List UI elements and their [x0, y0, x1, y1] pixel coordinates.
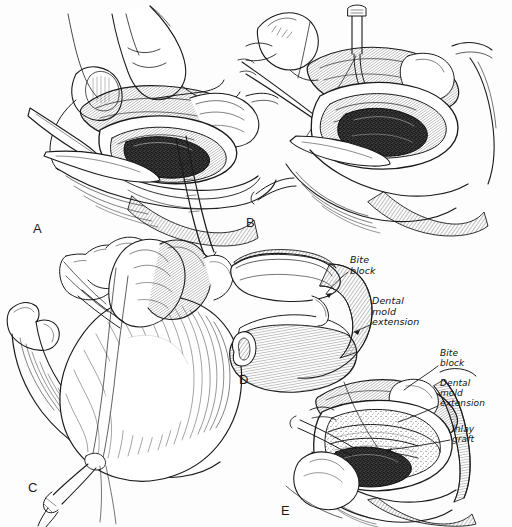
callout-d-dental-mold-extension: Dental mold extension [372, 296, 419, 328]
panel-letter-b: B [246, 216, 255, 229]
panel-letter-d: D [239, 373, 249, 386]
callout-d-bite-block: Bite block [350, 255, 376, 276]
panel-letter-c: C [28, 481, 38, 494]
panel-letter-e: E [281, 504, 290, 517]
callout-e-inlay-graft: Inlay graft [452, 424, 474, 444]
callout-e-dental-mold-extension: Dental mold extension [440, 378, 485, 408]
panel-letter-a: A [33, 222, 42, 235]
illustration-canvas [0, 0, 512, 527]
figure-plate: A B C D E Bite block Dental mold extensi… [0, 0, 512, 527]
callout-e-bite-block: Bite block [440, 348, 464, 368]
